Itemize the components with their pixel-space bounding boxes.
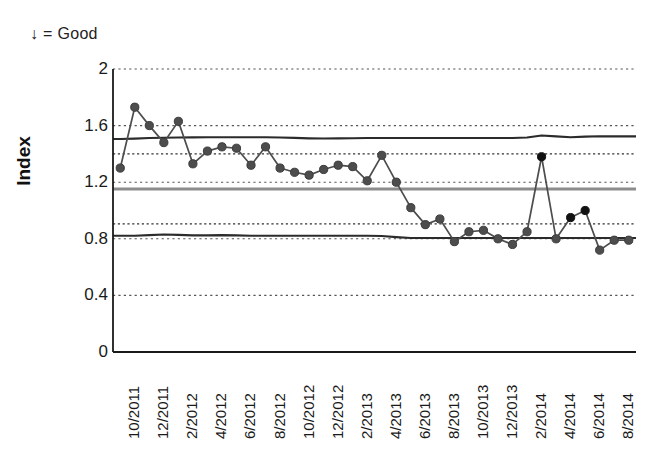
data-point[interactable]	[436, 215, 444, 223]
data-point[interactable]	[189, 160, 197, 168]
data-point[interactable]	[218, 143, 226, 151]
x-tick-label: 12/2012	[330, 385, 345, 439]
x-tick-label: 2/2012	[184, 393, 199, 439]
data-point[interactable]	[581, 206, 589, 214]
data-point[interactable]	[465, 228, 473, 236]
data-point[interactable]	[625, 236, 633, 244]
data-point[interactable]	[552, 235, 560, 243]
x-tick-label: 10/2013	[475, 385, 490, 439]
data-point[interactable]	[232, 144, 240, 152]
data-point[interactable]	[305, 171, 313, 179]
data-point[interactable]	[145, 122, 153, 130]
data-point[interactable]	[160, 138, 168, 146]
x-tick-label: 4/2013	[388, 393, 403, 439]
reference-lines	[113, 136, 636, 238]
data-point[interactable]	[479, 226, 487, 234]
x-tick-label: 8/2013	[446, 393, 461, 439]
data-point[interactable]	[494, 235, 502, 243]
x-tick-label: 2/2014	[533, 393, 548, 439]
data-point[interactable]	[276, 164, 284, 172]
reference-line	[113, 136, 636, 140]
data-point[interactable]	[392, 178, 400, 186]
x-tick-labels: 10/201112/20112/20124/20126/20128/201210…	[0, 364, 664, 467]
index-series-line	[120, 107, 628, 250]
data-point[interactable]	[407, 204, 415, 212]
data-point[interactable]	[537, 153, 545, 161]
data-point[interactable]	[174, 117, 182, 125]
x-tick-label: 10/2012	[301, 385, 316, 439]
data-point[interactable]	[596, 246, 604, 254]
data-point[interactable]	[610, 236, 618, 244]
data-point[interactable]	[349, 163, 357, 171]
data-point[interactable]	[116, 164, 124, 172]
x-tick-label: 6/2012	[242, 393, 257, 439]
data-point[interactable]	[334, 161, 342, 169]
axis-lines	[113, 69, 636, 352]
data-point[interactable]	[131, 103, 139, 111]
data-point[interactable]	[567, 213, 575, 221]
data-point[interactable]	[363, 177, 371, 185]
data-point[interactable]	[450, 238, 458, 246]
x-tick-label: 4/2014	[562, 393, 577, 439]
x-tick-label: 8/2014	[620, 393, 635, 439]
data-point[interactable]	[203, 147, 211, 155]
x-tick-label: 4/2012	[213, 393, 228, 439]
x-tick-label: 8/2012	[272, 393, 287, 439]
x-tick-label: 6/2014	[591, 393, 606, 439]
data-point[interactable]	[508, 240, 516, 248]
data-point[interactable]	[320, 165, 328, 173]
data-point[interactable]	[247, 161, 255, 169]
data-point[interactable]	[378, 151, 386, 159]
data-point[interactable]	[421, 221, 429, 229]
x-tick-label: 12/2013	[504, 385, 519, 439]
x-tick-label: 6/2013	[417, 393, 432, 439]
data-point[interactable]	[523, 228, 531, 236]
x-tick-label: 12/2011	[155, 386, 170, 439]
x-tick-label: 10/2011	[126, 386, 141, 439]
data-point[interactable]	[261, 143, 269, 151]
data-point[interactable]	[291, 168, 299, 176]
gridlines	[113, 69, 636, 295]
series-polyline	[120, 107, 628, 250]
chart-root: ↓ = Good Index 00.40.81.21.62 10/201112/…	[0, 0, 664, 467]
x-tick-label: 2/2013	[359, 393, 374, 439]
